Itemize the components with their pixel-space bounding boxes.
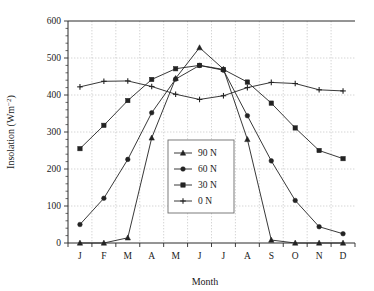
data-point [150, 77, 154, 81]
x-tick-label: A [244, 251, 251, 261]
legend-marker [181, 183, 185, 187]
data-point [268, 80, 274, 86]
legend-label: 90 N [198, 148, 217, 158]
x-axis-tick-labels: JFMAMJJASOND [78, 251, 346, 261]
insolation-line-chart: 0100200300400500600 JFMAMJJASOND 90 N60 … [0, 0, 374, 291]
legend-label: 30 N [198, 180, 217, 190]
data-point [293, 198, 298, 203]
data-point [245, 137, 250, 142]
x-tick-label: A [148, 251, 155, 261]
legend-label: 60 N [198, 164, 217, 174]
y-tick-label: 100 [47, 201, 62, 211]
data-point [245, 80, 249, 84]
y-axis-title: Insolation (Wm−2) [5, 95, 17, 169]
x-axis-title: Month [192, 276, 219, 287]
y-axis-tick-labels: 0100200300400500600 [47, 16, 62, 248]
data-point [101, 79, 107, 85]
data-point [245, 113, 250, 118]
data-point [102, 196, 107, 201]
y-tick-label: 0 [56, 238, 61, 248]
data-point [125, 235, 130, 240]
x-tick-label: M [124, 251, 133, 261]
data-point [221, 93, 227, 99]
data-point [149, 110, 154, 115]
data-point [126, 98, 130, 102]
data-point [293, 126, 297, 130]
data-point [149, 84, 155, 90]
data-point [173, 67, 177, 71]
data-point [149, 135, 154, 140]
data-point [78, 146, 82, 150]
data-point [197, 97, 203, 103]
data-point [173, 91, 179, 97]
data-point [341, 156, 345, 160]
data-point [78, 222, 83, 227]
data-point [269, 101, 273, 105]
data-point [197, 45, 202, 50]
x-tick-label: M [171, 251, 180, 261]
y-tick-label: 300 [47, 127, 62, 137]
data-point [102, 123, 106, 127]
data-point [316, 87, 322, 93]
data-point [269, 237, 274, 242]
y-tick-label: 200 [47, 164, 62, 174]
x-tick-label: N [316, 251, 323, 261]
x-tick-label: D [340, 251, 347, 261]
data-point [292, 81, 298, 87]
data-point [269, 159, 274, 164]
data-point [317, 148, 321, 152]
data-point [77, 84, 83, 90]
legend-label: 0 N [198, 196, 212, 206]
data-point [245, 85, 251, 91]
x-tick-label: J [78, 251, 82, 261]
data-point [125, 78, 131, 84]
legend-marker [181, 167, 186, 172]
data-point [125, 157, 130, 162]
data-point [221, 67, 225, 71]
data-point [340, 88, 346, 94]
data-point [317, 224, 322, 229]
x-tick-label: J [198, 251, 202, 261]
x-tick-label: F [101, 251, 106, 261]
data-point [341, 231, 346, 236]
x-tick-label: S [269, 251, 274, 261]
data-point [173, 77, 178, 82]
y-tick-label: 400 [47, 90, 62, 100]
x-tick-label: O [292, 251, 299, 261]
chart-legend: 90 N60 N30 N0 N [168, 140, 234, 213]
chart-canvas: 0100200300400500600 JFMAMJJASOND 90 N60 … [0, 0, 374, 291]
y-tick-label: 500 [47, 53, 62, 63]
data-point [197, 63, 201, 67]
y-tick-label: 600 [47, 16, 62, 26]
x-tick-label: J [222, 251, 226, 261]
